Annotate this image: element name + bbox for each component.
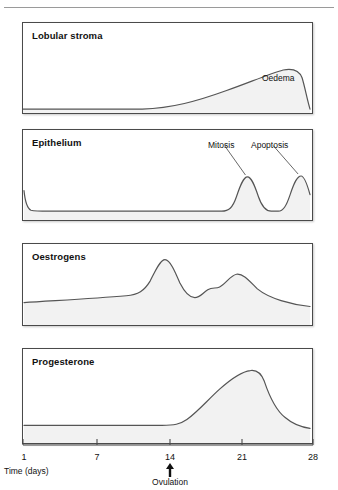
- panel-title-epithelium: Epithelium: [32, 137, 82, 148]
- annotation-apoptosis: Apoptosis: [251, 140, 288, 150]
- panel-progesterone: Progesterone: [22, 348, 313, 444]
- menstrual-cycle-figure: Lobular stroma Oedema Epithelium Mitosis…: [0, 0, 338, 490]
- ovulation-arrow-icon: [163, 463, 177, 477]
- panel-lobular-stroma: Lobular stroma: [22, 22, 313, 114]
- ovulation-label: Ovulation: [152, 477, 188, 487]
- annotation-mitosis: Mitosis: [208, 140, 234, 150]
- panel-title-lobular-stroma: Lobular stroma: [32, 30, 103, 41]
- panel-title-oestrogens: Oestrogens: [32, 251, 86, 262]
- leader-line-mitosis: [225, 146, 246, 175]
- x-tick-label-14: 14: [165, 452, 175, 462]
- x-tick-label-1: 1: [21, 452, 26, 462]
- x-tick-label-21: 21: [237, 452, 247, 462]
- x-tick-label-7: 7: [94, 452, 99, 462]
- panel-title-progesterone: Progesterone: [32, 356, 94, 367]
- x-axis-title: Time (days): [4, 466, 49, 476]
- panel-oestrogens: Oestrogens: [22, 243, 313, 326]
- annotation-oedema: Oedema: [262, 73, 295, 83]
- top-divider-rule: [4, 7, 334, 8]
- x-tick-label-28: 28: [308, 452, 318, 462]
